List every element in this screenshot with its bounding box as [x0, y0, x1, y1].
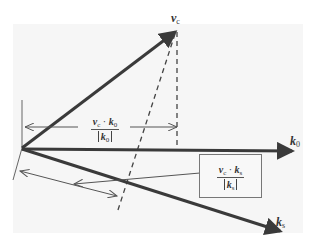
k0-projection-formula: vc · k0 k0 [80, 116, 130, 144]
ks-label: ks [276, 216, 285, 230]
ks-projection-formula: vc · ks ks [200, 164, 261, 192]
k0-formula-denominator: k0 [80, 131, 130, 144]
vc-label: vc [171, 12, 180, 26]
ks-formula-numerator: vc · ks [217, 164, 245, 178]
ks-projection-arrow-a [20, 171, 70, 184]
ks-projection-formula-box: vc · ks ks [199, 154, 262, 198]
k0-vector-arrow [22, 149, 292, 151]
k0-formula-numerator: vc · k0 [91, 116, 119, 130]
ks-formula-denominator: ks [200, 179, 261, 192]
k0-label: k0 [290, 135, 300, 149]
ks-label-leader-line [74, 173, 200, 184]
vector-projection-diagram: vc k0 ks vc · k0 k0 vc · ks ks [0, 0, 313, 245]
origin-ks-tick [13, 148, 22, 180]
ks-projection-arrow-b [70, 184, 117, 196]
diagram-lines [0, 0, 313, 245]
